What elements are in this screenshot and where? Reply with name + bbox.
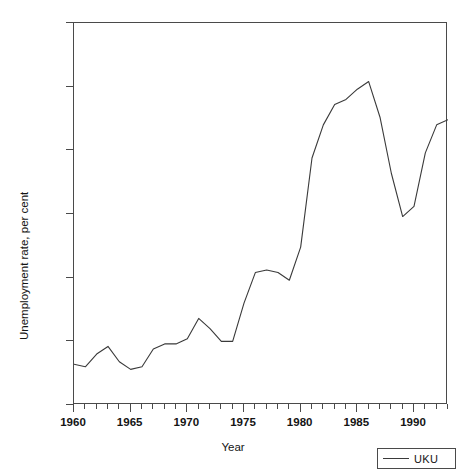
y-axis-title: Unemployment rate, per cent (18, 192, 30, 340)
legend-label-uku: UKU (414, 453, 438, 465)
x-tick-mark-major (186, 404, 187, 412)
y-tick-mark (66, 22, 73, 23)
x-tick-mark-major (130, 404, 131, 412)
x-tick-label: 1985 (344, 416, 370, 428)
unemployment-rate-line-chart: Unemployment rate, per cent 0.02.55.07.5… (0, 0, 466, 476)
x-tick-mark-major (413, 404, 414, 412)
series-line-uku (74, 82, 448, 370)
x-tick-label: 1970 (174, 416, 200, 428)
legend-line-swatch-uku (383, 458, 409, 459)
plot-area (73, 22, 447, 404)
legend-box[interactable]: UKU (377, 448, 456, 469)
x-tick-mark-major (73, 404, 74, 412)
x-tick-label: 1990 (400, 416, 426, 428)
y-tick-mark (66, 149, 73, 150)
series-uku-line (74, 23, 448, 405)
x-tick-label: 1965 (117, 416, 143, 428)
x-tick-mark-major (356, 404, 357, 412)
y-tick-mark (66, 404, 73, 405)
x-tick-mark-major (300, 404, 301, 412)
y-tick-mark (66, 86, 73, 87)
x-tick-label: 1980 (287, 416, 313, 428)
y-tick-mark (66, 340, 73, 341)
x-tick-mark-major (243, 404, 244, 412)
y-tick-mark (66, 213, 73, 214)
x-tick-label: 1975 (230, 416, 256, 428)
y-tick-mark (66, 277, 73, 278)
x-tick-label: 1960 (60, 416, 86, 428)
